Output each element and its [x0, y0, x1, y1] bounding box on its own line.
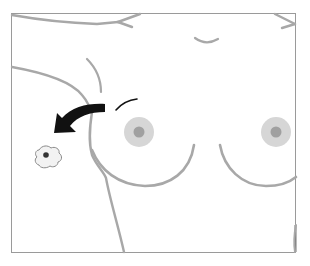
cell-nucleus: [43, 152, 49, 158]
migrating-cell-icon: [35, 146, 61, 168]
anatomical-diagram: [0, 0, 310, 266]
left-nipple: [134, 127, 145, 138]
right-nipple: [271, 127, 282, 138]
